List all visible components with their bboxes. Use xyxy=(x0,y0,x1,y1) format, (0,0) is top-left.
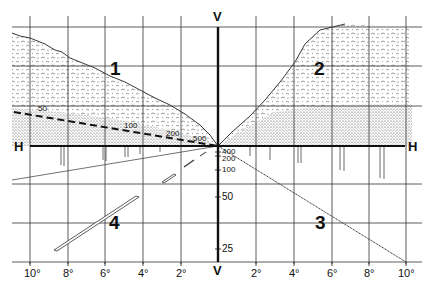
distance-label-100: 100 xyxy=(124,122,137,130)
distance-label-50: 50 xyxy=(38,105,47,113)
quadrant-1-label: 1 xyxy=(110,59,121,78)
v-distance-label-200: 200 xyxy=(222,155,235,163)
degree-label-right-6: 6° xyxy=(327,268,338,279)
degree-label-left-6: 6° xyxy=(100,268,111,279)
degree-label-left-4: 4° xyxy=(138,268,149,279)
vertical-label-bottom: V xyxy=(213,264,222,277)
v-distance-label-25: 25 xyxy=(222,244,233,254)
road-markings xyxy=(54,152,206,251)
v-distance-label-100: 100 xyxy=(222,166,235,174)
degree-label-left-10: 10° xyxy=(24,268,41,279)
horizon-label-left: H xyxy=(14,140,23,153)
quadrant-3-label: 3 xyxy=(315,213,326,232)
degree-label-right-2: 2° xyxy=(251,268,262,279)
degree-label-left-2: 2° xyxy=(176,268,187,279)
horizon-label-right: H xyxy=(408,140,417,153)
degree-label-right-10: 10° xyxy=(398,268,415,279)
v-distance-label-50: 50 xyxy=(222,192,233,202)
ground-line-right xyxy=(218,146,406,262)
perspective-diagram: H H V V 1 2 3 4 50 100 200 500 400 200 1… xyxy=(0,0,433,288)
ground-line-left xyxy=(12,146,218,180)
diagram-canvas xyxy=(0,0,433,288)
tree-mass-2 xyxy=(218,24,412,146)
degree-label-right-4: 4° xyxy=(289,268,300,279)
degree-label-left-8: 8° xyxy=(63,268,74,279)
vertical-label-top: V xyxy=(213,10,222,23)
distance-label-500: 500 xyxy=(193,135,206,143)
distance-label-200: 200 xyxy=(166,130,179,138)
quadrant-2-label: 2 xyxy=(314,59,325,78)
quadrant-4-label: 4 xyxy=(109,213,120,232)
degree-label-right-8: 8° xyxy=(364,268,375,279)
